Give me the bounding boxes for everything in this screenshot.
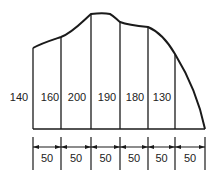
interval-label: 50 bbox=[184, 152, 196, 164]
interval-label: 50 bbox=[99, 152, 111, 164]
arrowheads bbox=[33, 145, 205, 149]
ordinate-label: 200 bbox=[68, 91, 86, 103]
ordinate-label: 180 bbox=[126, 91, 144, 103]
interval-label: 50 bbox=[70, 152, 82, 164]
dimension-line bbox=[33, 137, 205, 170]
land-area-ordinate-diagram: 140 160 200 190 180 130 50 50 50 5 bbox=[0, 0, 216, 176]
interval-label: 50 bbox=[128, 152, 140, 164]
ordinate-label: 160 bbox=[41, 91, 59, 103]
ordinate-label: 130 bbox=[153, 91, 171, 103]
interval-label: 50 bbox=[41, 152, 53, 164]
ordinate-lines bbox=[33, 14, 175, 129]
ordinate-label: 140 bbox=[10, 91, 28, 103]
boundary-curve bbox=[33, 13, 205, 129]
ordinate-label: 190 bbox=[98, 91, 116, 103]
interval-label: 50 bbox=[155, 152, 167, 164]
interval-labels: 50 50 50 50 50 50 bbox=[41, 152, 196, 164]
